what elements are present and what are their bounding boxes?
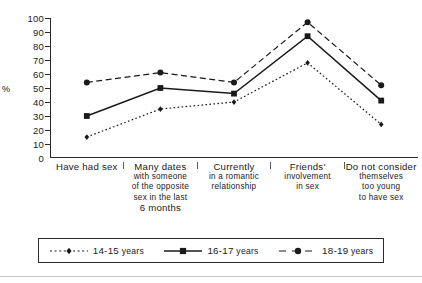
x-category-5: Do not considerthemselvestoo youngto hav… [344,162,418,230]
x-category-separator [270,162,271,169]
x-category-line: in sex [272,182,344,192]
series-16-17-years [84,33,384,119]
x-category-line: with someone [125,172,197,182]
data-point [84,79,90,85]
x-category-line: involvement [272,172,344,182]
legend-swatch-square-icon [163,245,203,257]
x-category-line: of the opposite [125,182,197,192]
data-point [378,98,384,104]
x-category-4: Friends'involvementin sex [271,162,345,230]
x-category-line: Have had sex [51,162,123,172]
x-category-line: 6 months [125,203,197,213]
x-category-line: too young [345,182,417,192]
legend-label: 14-15 years [93,245,144,256]
data-point [231,79,237,85]
legend-age-range: 18-19 [322,245,348,256]
data-point [232,99,237,105]
x-category-line: Friends' [272,162,344,172]
x-category-line: to have sex [345,193,417,203]
x-category-2: Many dateswith someoneof the oppositesex… [124,162,198,230]
x-category-line: relationship [198,182,270,192]
data-point [157,70,163,76]
data-point [84,113,90,119]
legend-item-18-19: 18-19 years [278,245,373,257]
series-line [87,22,381,85]
data-point [231,91,237,97]
x-axis-category-labels: Have had sexMany dateswith someoneof the… [50,162,418,230]
x-category-separator [344,162,345,169]
legend-unit: years [351,246,373,256]
legend-unit: years [122,246,144,256]
legend-swatch-circle-icon [278,245,318,257]
data-point [158,106,163,112]
legend-swatch-diamond-icon [49,245,89,257]
chart-legend: 14-15 years16-17 years18-19 years [38,238,384,263]
data-point [85,134,90,140]
x-category-separator [197,162,198,169]
legend-item-14-15: 14-15 years [49,245,144,257]
legend-item-16-17: 16-17 years [163,245,258,257]
data-point [305,19,311,25]
chart-figure: % 1009080706050403020100 Have had sexMan… [0,0,422,283]
legend-label: 18-19 years [322,245,373,256]
legend-unit: years [236,246,258,256]
x-category-1: Have had sex [50,162,124,230]
data-point [305,33,311,39]
x-category-line: themselves [345,172,417,182]
legend-age-range: 14-15 [93,245,119,256]
x-category-line: Do not consider [345,162,417,172]
data-point [305,60,310,66]
legend-label: 16-17 years [207,245,258,256]
x-category-line: in a romantic [198,172,270,182]
x-category-line: Currently [198,162,270,172]
data-point [378,82,384,88]
series-18-19-years [84,19,384,88]
data-point [158,85,164,91]
plot-area: % 1009080706050403020100 [0,0,422,160]
series-lines-and-markers [0,0,422,160]
footer-divider [0,276,422,277]
x-category-line: Many dates [125,162,197,172]
legend-age-range: 16-17 [207,245,233,256]
x-category-separator [123,162,124,169]
x-category-3: Currentlyin a romanticrelationship [197,162,271,230]
